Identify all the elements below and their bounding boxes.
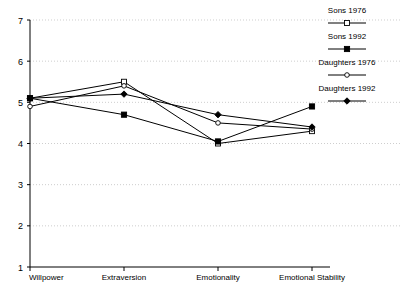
legend-label-0: Sons 1976 [328, 6, 367, 15]
x-axis-label-0: Willpower [29, 273, 64, 282]
y-axis-label-6: 6 [18, 57, 23, 67]
series-line-0 [30, 82, 312, 144]
y-axis-label-3: 3 [18, 180, 23, 190]
series-2-point-2 [216, 121, 221, 126]
legend-label-3: Daughters 1992 [319, 84, 376, 93]
legend-marker-0 [345, 21, 350, 26]
y-axis-label-4: 4 [18, 139, 23, 149]
x-axis-labels: WillpowerExtraversionEmotionalityEmotion… [29, 273, 345, 282]
series-1-point-2 [215, 139, 220, 144]
series-3-point-2 [215, 111, 221, 117]
legend-marker-3 [344, 98, 350, 104]
y-axis-label-7: 7 [18, 16, 23, 26]
series-3-point-1 [121, 91, 127, 97]
series-2-point-1 [122, 84, 127, 89]
chart-canvas: 1234567 WillpowerExtraversionEmotionalit… [0, 0, 413, 301]
y-axis-label-5: 5 [18, 98, 23, 108]
y-axis-labels: 1234567 [18, 16, 23, 273]
legend-label-1: Sons 1992 [328, 32, 367, 41]
x-tick-group [30, 267, 312, 271]
y-axis-label-1: 1 [18, 263, 23, 273]
y-axis-label-2: 2 [18, 221, 23, 231]
chart-legend: Sons 1976Sons 1992Daughters 1976Daughter… [319, 6, 376, 104]
series-2-point-0 [28, 104, 33, 109]
line-chart: 1234567 WillpowerExtraversionEmotionalit… [0, 0, 413, 301]
x-axis-label-1: Extraversion [102, 273, 146, 282]
x-axis-label-2: Emotionality [196, 273, 240, 282]
x-axis-label-3: Emotional Stability [279, 273, 345, 282]
legend-label-2: Daughters 1976 [319, 58, 376, 67]
series-1-point-3 [309, 104, 314, 109]
legend-marker-2 [345, 73, 350, 78]
legend-marker-1 [344, 46, 349, 51]
series-group [27, 79, 315, 146]
series-1-point-1 [121, 112, 126, 117]
